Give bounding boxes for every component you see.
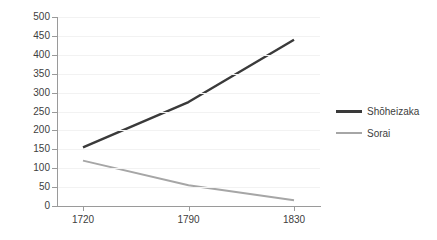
- y-axis-tick: [52, 112, 57, 113]
- x-axis-tick-label: 1790: [159, 214, 219, 225]
- y-axis-tick: [52, 130, 57, 131]
- y-axis-tick: [52, 168, 57, 169]
- grid-line: [57, 149, 320, 150]
- legend-item-shoheizaka: Shōheizaka: [336, 100, 419, 122]
- grid-line: [57, 93, 320, 94]
- x-axis-tick: [189, 206, 190, 211]
- grid-line: [57, 187, 320, 188]
- y-axis-tick-label: 500: [10, 12, 50, 22]
- y-axis-tick-label: 350: [10, 69, 50, 79]
- grid-line: [57, 112, 320, 113]
- legend-item-sorai: Sorai: [336, 122, 419, 144]
- y-axis-tick: [52, 74, 57, 75]
- grid-line: [57, 36, 320, 37]
- y-axis-tick: [52, 149, 57, 150]
- grid-line: [57, 74, 320, 75]
- x-axis-tick-label: 1720: [53, 214, 113, 225]
- plot-area: [57, 17, 320, 206]
- grid-line: [57, 168, 320, 169]
- y-axis-tick-label: 450: [10, 31, 50, 41]
- line-chart: 050100150200250300350400450500 172017901…: [0, 0, 437, 240]
- y-axis-tick: [52, 36, 57, 37]
- legend-label-shoheizaka: Shōheizaka: [367, 106, 419, 117]
- y-axis-tick: [52, 187, 57, 188]
- grid-line: [57, 55, 320, 56]
- x-axis-tick-label: 1830: [264, 214, 324, 225]
- y-axis-tick-label: 400: [10, 50, 50, 60]
- y-axis-tick-label: 200: [10, 125, 50, 135]
- y-axis-tick-label: 250: [10, 107, 50, 117]
- y-axis-tick-label: 50: [10, 182, 50, 192]
- y-axis-tick-label: 100: [10, 163, 50, 173]
- grid-line: [57, 17, 320, 18]
- legend-label-sorai: Sorai: [367, 128, 390, 139]
- y-axis-tick-label: 0: [10, 201, 50, 211]
- y-axis-line: [57, 17, 58, 206]
- x-axis-tick: [83, 206, 84, 211]
- legend: Shōheizaka Sorai: [336, 100, 419, 144]
- y-axis-tick: [52, 55, 57, 56]
- grid-line: [57, 130, 320, 131]
- legend-swatch-shoheizaka: [336, 110, 362, 113]
- legend-swatch-sorai: [336, 132, 362, 134]
- y-axis-tick: [52, 17, 57, 18]
- x-axis-tick: [294, 206, 295, 211]
- y-axis-tick: [52, 206, 57, 207]
- y-axis-labels: 050100150200250300350400450500: [5, 0, 50, 240]
- y-axis-tick: [52, 93, 57, 94]
- series-line-sorai: [83, 161, 294, 201]
- y-axis-tick-label: 150: [10, 144, 50, 154]
- y-axis-tick-label: 300: [10, 88, 50, 98]
